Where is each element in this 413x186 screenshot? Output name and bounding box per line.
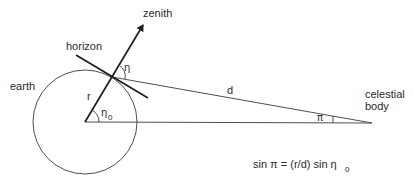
- label-angle-eta: η: [124, 62, 130, 73]
- label-horizon: horizon: [66, 40, 102, 52]
- parallax-diagram: zenith horizon earth r d celestial body …: [0, 0, 413, 186]
- label-angle-eta0-sub: 0: [108, 113, 113, 122]
- label-body: body: [365, 100, 389, 112]
- label-angle-pi: π: [317, 112, 323, 123]
- label-celestial: celestial: [365, 88, 405, 100]
- angle-arc-eta0: [92, 110, 99, 122]
- formula-subscript: 0: [345, 165, 350, 174]
- label-radius: r: [87, 90, 91, 102]
- label-distance: d: [227, 84, 233, 96]
- label-earth: earth: [10, 80, 35, 92]
- baseline: [85, 122, 372, 123]
- label-zenith: zenith: [143, 7, 172, 19]
- formula: sin π = (r/d) sin η: [253, 158, 337, 170]
- label-angle-eta0: η: [101, 107, 107, 118]
